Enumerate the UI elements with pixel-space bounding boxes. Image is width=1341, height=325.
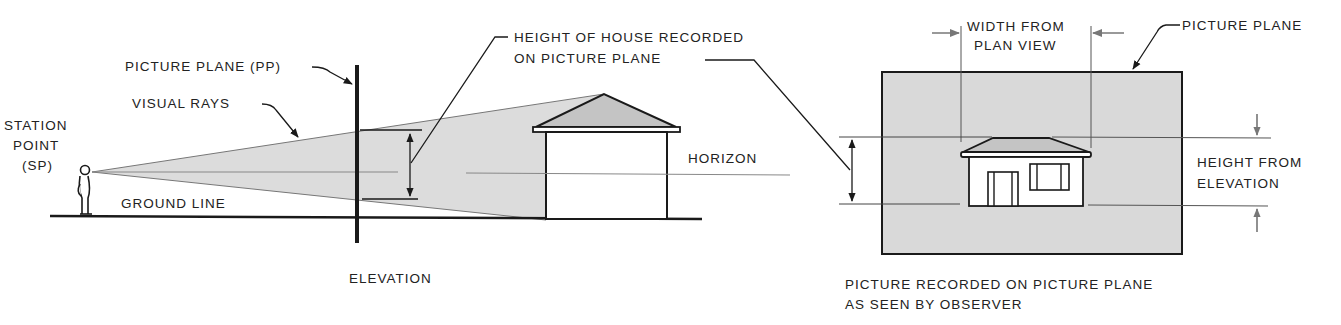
station-point-label: STATION [4,118,68,133]
width-from-plan-label: WIDTH FROM [967,19,1065,34]
horizon-label: HORIZON [688,151,757,166]
perspective-diagram: STATION POINT (SP) PICTURE PLANE (PP) VI… [0,0,1341,325]
picture-plane-right-label: PICTURE PLANE [1182,18,1302,33]
station-point-label-3: (SP) [22,158,53,173]
station-point-label-2: POINT [13,138,59,153]
height-from-elevation-label: HEIGHT FROM [1197,155,1302,170]
door-icon [988,172,1018,206]
height-recorded-label-2: ON PICTURE PLANE [514,51,661,66]
height-from-elevation-label-2: ELEVATION [1197,176,1280,191]
visual-rays-label: VISUAL RAYS [132,96,230,111]
picture-caption-2: AS SEEN BY OBSERVER [845,297,1023,312]
height-recorded-label: HEIGHT OF HOUSE RECORDED [514,30,744,45]
width-from-plan-label-2: PLAN VIEW [974,38,1057,53]
ground-line-label: GROUND LINE [121,196,226,211]
picture-plane-label: PICTURE PLANE (PP) [125,59,281,74]
observer-figure-icon [78,166,92,215]
picture-plane-view: WIDTH FROM PLAN VIEW PICTURE PLANE HEIGH… [839,18,1302,312]
picture-caption: PICTURE RECORDED ON PICTURE PLANE [845,277,1153,292]
elevation-caption: ELEVATION [349,271,432,286]
house-front [961,138,1091,206]
window-icon [1030,164,1069,190]
elevation-view: STATION POINT (SP) PICTURE PLANE (PP) VI… [4,30,850,286]
